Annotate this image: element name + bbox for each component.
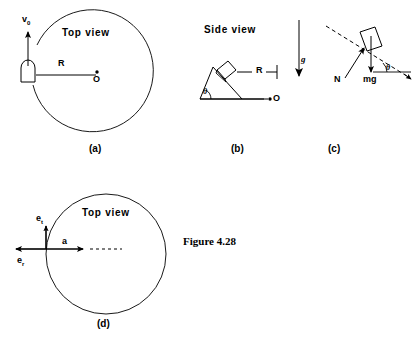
view-label-a: Top view xyxy=(62,27,110,38)
incline-dashed-c xyxy=(326,26,410,78)
physics-figure-4-28: v0 Top view R O (a) Side view R O g θ (b… xyxy=(0,0,418,344)
incline-arrow-c xyxy=(404,74,411,79)
acceleration-label-d: a xyxy=(62,236,67,246)
normal-force-arrow-c xyxy=(345,48,364,78)
center-label-b: O xyxy=(273,93,280,103)
center-label-a: O xyxy=(93,74,100,84)
gravity-label-b: g xyxy=(301,54,306,64)
velocity-subscript-a: 0 xyxy=(27,20,30,26)
radius-label-b: R xyxy=(256,65,263,75)
angle-label-c: θ xyxy=(386,63,390,72)
panel-label-d: (d) xyxy=(97,318,110,329)
figure-canvas xyxy=(0,0,418,344)
angle-label-b: θ xyxy=(203,87,207,96)
unit-tangential-label-d: et xyxy=(36,213,43,225)
weight-label-c: mg xyxy=(363,74,377,84)
unit-radial-label-d: er xyxy=(17,255,24,267)
panel-label-a: (a) xyxy=(89,143,101,154)
panel-c xyxy=(326,26,411,79)
velocity-label-a: v0 xyxy=(22,14,30,26)
view-label-d: Top view xyxy=(82,207,130,218)
unit-radial-subscript-d: r xyxy=(22,261,24,267)
figure-caption: Figure 4.28 xyxy=(183,235,236,247)
center-point-b xyxy=(268,97,271,100)
panel-label-b: (b) xyxy=(231,143,244,154)
view-label-b: Side view xyxy=(204,24,256,35)
panel-label-c: (c) xyxy=(328,143,340,154)
radius-label-a: R xyxy=(58,58,65,68)
normal-force-label-c: N xyxy=(334,74,341,84)
unit-tangential-subscript-d: t xyxy=(41,219,43,225)
